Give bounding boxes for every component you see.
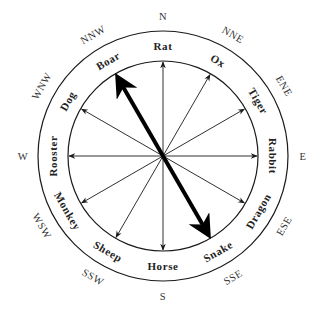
- spoke-arrow-monkey: [82, 156, 163, 203]
- animal-label-dog: Dog: [57, 89, 78, 113]
- direction-label-ese: ESE: [274, 214, 294, 237]
- animal-label-dragon: Dragon: [243, 191, 273, 231]
- zodiac-compass-diagram: RatOxTigerRabbitDragonSnakeHorseSheepMon…: [0, 0, 324, 311]
- animal-label-tiger: Tiger: [246, 86, 271, 117]
- animal-label-monkey: Monkey: [52, 190, 83, 232]
- direction-label-s: S: [160, 291, 166, 302]
- compass-svg: RatOxTigerRabbitDragonSnakeHorseSheepMon…: [0, 0, 324, 311]
- direction-label-e: E: [299, 151, 306, 162]
- animal-label-snake: Snake: [201, 238, 234, 264]
- direction-label-nne: NNE: [220, 24, 246, 45]
- direction-label-w: W: [18, 151, 29, 162]
- spoke-arrow-ox: [163, 75, 210, 156]
- direction-label-nnw: NNW: [79, 23, 108, 46]
- direction-label-n: N: [159, 11, 167, 22]
- animal-label-boar: Boar: [94, 49, 122, 72]
- spoke-arrow-tiger: [163, 109, 244, 156]
- direction-label-wsw: WSW: [30, 211, 53, 240]
- animal-label-ox: Ox: [208, 52, 227, 70]
- spoke-arrow-sheep: [116, 156, 163, 237]
- direction-label-wnw: WNW: [30, 71, 54, 102]
- direction-label-ene: ENE: [274, 74, 295, 99]
- animal-label-rooster: Rooster: [47, 136, 59, 177]
- animal-label-rat: Rat: [154, 40, 173, 52]
- direction-label-ssw: SSW: [80, 267, 106, 288]
- direction-label-sse: SSE: [222, 267, 245, 286]
- animal-label-sheep: Sheep: [92, 238, 125, 264]
- animal-label-horse: Horse: [147, 260, 178, 272]
- animal-label-rabbit: Rabbit: [267, 138, 279, 174]
